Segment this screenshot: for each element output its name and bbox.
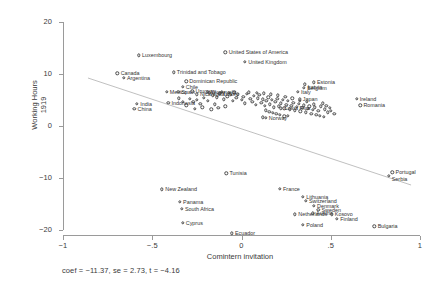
regression-fit-line <box>88 78 411 185</box>
fit-line-svg <box>0 0 432 281</box>
scatter-plot-figure: Working Hours 1919 Comintern invitation … <box>0 0 432 281</box>
